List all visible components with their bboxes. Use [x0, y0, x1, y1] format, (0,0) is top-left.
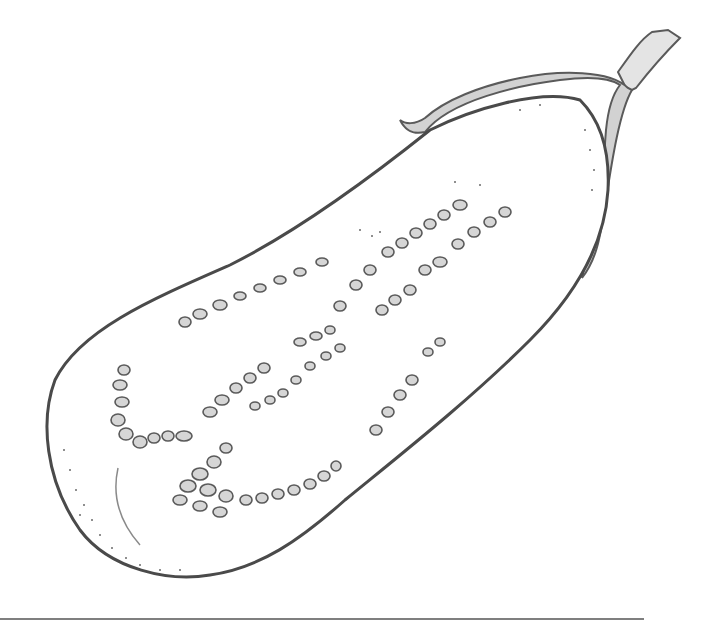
- illustration-canvas: Halved eggplant, pen-and-ink drawing: [0, 0, 713, 629]
- eggplant-drawing: [0, 0, 713, 629]
- stem: [618, 30, 680, 92]
- eggplant-body: [47, 97, 608, 577]
